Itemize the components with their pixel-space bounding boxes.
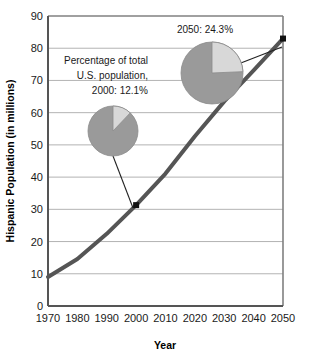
x-tick-1990: 1990 [95, 312, 119, 324]
y-tick-60: 60 [31, 107, 43, 119]
x-tick-2030: 2030 [212, 312, 236, 324]
y-tick-20: 20 [31, 236, 43, 248]
y-tick-80: 80 [31, 42, 43, 54]
x-axis-title: Year [154, 339, 176, 351]
x-tick-2040: 2040 [241, 312, 265, 324]
x-tick-1970: 1970 [36, 312, 60, 324]
pie-chart-2050 [181, 42, 243, 104]
y-tick-70: 70 [31, 74, 43, 86]
annotation-2000-line-2: U.S. population, [77, 70, 148, 81]
y-tick-10: 10 [31, 268, 43, 280]
x-tick-2010: 2010 [153, 312, 177, 324]
x-tick-2020: 2020 [183, 312, 207, 324]
x-tick-2050: 2050 [271, 312, 295, 324]
annotation-2050-line-1: 2050: 24.3% [177, 24, 233, 35]
x-tick-2000: 2000 [124, 312, 148, 324]
y-tick-50: 50 [31, 139, 43, 151]
pie-chart-2000 [88, 106, 138, 156]
y-tick-30: 30 [31, 203, 43, 215]
hispanic-population-line-chart: 0102030405060708090 19701980199020002010… [0, 0, 313, 358]
annotation-2000-line-3: 2000: 12.1% [92, 85, 148, 96]
marker-2000 [133, 202, 139, 208]
y-tick-0: 0 [37, 300, 43, 312]
x-axis-tick-labels: 197019801990200020102020203020402050 [36, 312, 295, 324]
marker-2050 [280, 36, 286, 42]
y-tick-90: 90 [31, 10, 43, 22]
chart-container: 0102030405060708090 19701980199020002010… [0, 0, 313, 358]
x-tick-1980: 1980 [65, 312, 89, 324]
y-tick-40: 40 [31, 171, 43, 183]
y-axis-title: Hispanic Population (in millions) [4, 80, 16, 243]
annotation-2000-line-1: Percentage of total [64, 55, 148, 66]
